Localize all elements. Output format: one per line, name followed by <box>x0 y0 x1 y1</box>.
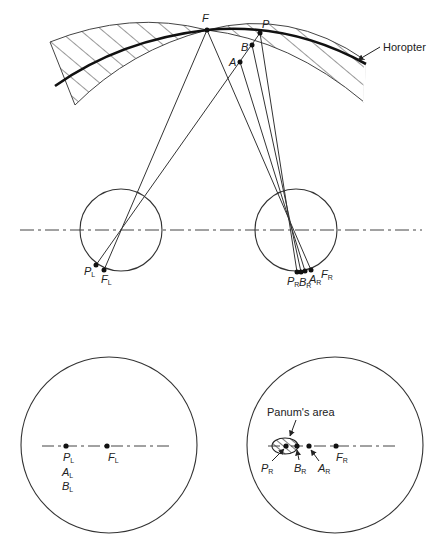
label-FL: FL <box>101 273 112 286</box>
label-FR: FR <box>321 268 333 281</box>
panum-fusional-region <box>50 22 365 105</box>
label-F: F <box>202 12 210 24</box>
label-P: P <box>262 18 270 30</box>
label-AR: AR <box>308 273 321 286</box>
point-P <box>258 31 263 36</box>
point-B <box>250 43 255 48</box>
label-bl-PL: PL <box>63 451 74 464</box>
right-eye-projection-lines <box>207 30 311 272</box>
point-A <box>238 60 243 65</box>
label-br-BR: BR <box>294 462 306 475</box>
label-A: A <box>228 56 236 68</box>
label-br-FR: FR <box>336 451 348 464</box>
horopter-label: Horopter <box>383 41 426 53</box>
label-bl-FL: FL <box>108 451 119 464</box>
left-retina-view: PL FL AL BL <box>21 357 197 533</box>
point-F <box>205 28 210 33</box>
panums-area-label: Panum's area <box>267 406 335 418</box>
label-B: B <box>241 41 248 53</box>
label-bl-BL: BL <box>62 480 73 493</box>
label-PR: PR <box>287 275 299 288</box>
right-retina-view: Panum's area PR BR AR FR <box>247 357 423 533</box>
horopter-diagram: F P B A Horopter PL FL PR BR AR FR PL FL… <box>0 0 442 553</box>
label-br-AR: AR <box>317 462 330 475</box>
label-bl-AL: AL <box>61 466 73 479</box>
label-br-PR: PR <box>261 462 273 475</box>
label-PL: PL <box>84 265 95 278</box>
horopter-arrow <box>358 47 380 60</box>
